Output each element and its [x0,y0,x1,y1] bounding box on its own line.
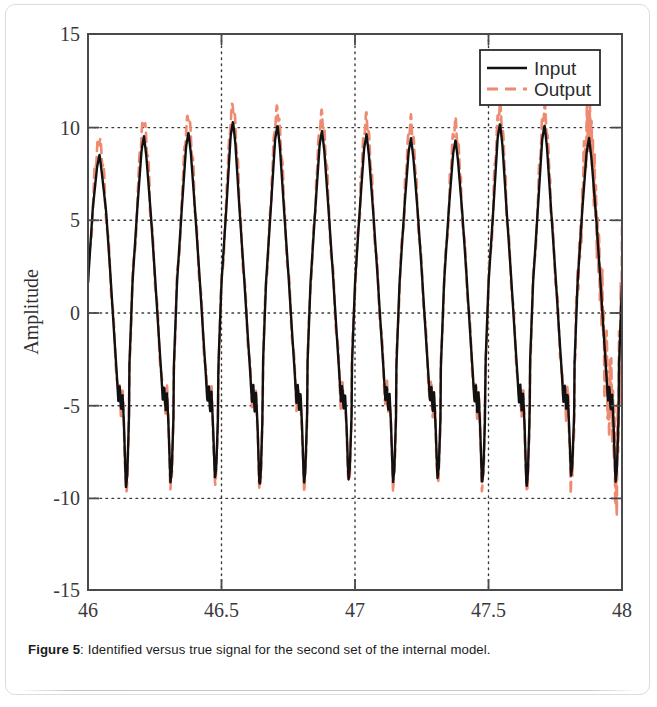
legend-label-input: Input [534,58,577,79]
chart-legend[interactable]: Input Output [480,50,600,105]
figure-caption: Figure 5: Identified versus true signal … [28,641,628,659]
y-tick-label-5: 5 [70,209,80,231]
scan-artifact-line [18,690,640,691]
y-tick-label-0: 0 [70,302,80,324]
y-tick-label-15: 15 [60,23,80,45]
y-tick-label-10: 10 [60,117,80,139]
x-tick-label-48: 48 [612,599,632,621]
figure-caption-text: Identified versus true signal for the se… [84,642,491,657]
x-tick-label-47: 47 [345,599,365,621]
x-tick-label-46-5: 46.5 [204,599,239,621]
figure-page: 15 10 5 0 -5 -10 -15 46 46.5 47 47.5 48 … [0,0,657,707]
x-tick-label-46: 46 [78,599,98,621]
y-axis-title: Amplitude [20,269,43,355]
legend-label-output: Output [534,79,592,100]
y-tick-label-neg15: -15 [53,579,80,601]
figure-caption-label: Figure 5 [28,642,80,657]
y-tick-label-neg5: -5 [63,395,80,417]
figure-area: 15 10 5 0 -5 -10 -15 46 46.5 47 47.5 48 … [0,0,657,630]
x-tick-label-47-5: 47.5 [471,599,506,621]
amplitude-vs-time-chart: 15 10 5 0 -5 -10 -15 46 46.5 47 47.5 48 … [0,0,657,630]
y-tick-label-neg10: -10 [53,487,80,509]
